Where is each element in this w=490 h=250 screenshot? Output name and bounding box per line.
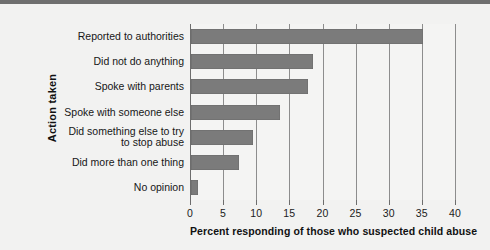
gridline-35: [422, 24, 423, 200]
x-tick-40: [455, 200, 456, 205]
x-tick-label-30: 30: [383, 207, 395, 219]
y-tick-label: Did not do anything: [34, 56, 184, 67]
bar: [191, 130, 253, 145]
y-tick-label: No opinion: [34, 182, 184, 193]
x-tick-label-20: 20: [316, 207, 328, 219]
x-tick-0: [190, 200, 191, 205]
y-tick-label: Did something else to try to stop abuse: [34, 126, 184, 148]
x-tick-label-40: 40: [449, 207, 461, 219]
x-tick-20: [323, 200, 324, 205]
bar: [191, 105, 280, 120]
x-tick-label-15: 15: [283, 207, 295, 219]
plot-area: 0510152025303540: [190, 24, 455, 200]
x-tick-5: [223, 200, 224, 205]
gridline-25: [356, 24, 357, 200]
bar: [191, 29, 423, 44]
x-tick-35: [422, 200, 423, 205]
y-tick-label: Spoke with parents: [34, 81, 184, 92]
bar: [191, 155, 239, 170]
x-tick-label-5: 5: [220, 207, 226, 219]
x-tick-15: [289, 200, 290, 205]
page-top-rule: [0, 0, 490, 4]
gridline-20: [323, 24, 324, 200]
gridline-30: [389, 24, 390, 200]
gridline-40: [455, 24, 456, 200]
y-tick-label: Spoke with someone else: [34, 107, 184, 118]
chart-figure: Action taken Reported to authoritiesDid …: [0, 0, 490, 250]
y-tick-label: Reported to authorities: [34, 31, 184, 42]
y-tick-label: Did more than one thing: [34, 157, 184, 168]
x-tick-30: [389, 200, 390, 205]
x-tick-25: [356, 200, 357, 205]
x-tick-label-35: 35: [416, 207, 428, 219]
bar: [191, 79, 308, 94]
bar: [191, 180, 198, 195]
bar: [191, 54, 313, 69]
x-tick-label-0: 0: [187, 207, 193, 219]
x-tick-label-25: 25: [350, 207, 362, 219]
x-tick-label-10: 10: [250, 207, 262, 219]
gridline-15: [289, 24, 290, 200]
y-axis-tick-labels: Reported to authoritiesDid not do anythi…: [30, 24, 184, 200]
x-tick-10: [256, 200, 257, 205]
x-axis-title: Percent responding of those who suspecte…: [190, 225, 455, 237]
